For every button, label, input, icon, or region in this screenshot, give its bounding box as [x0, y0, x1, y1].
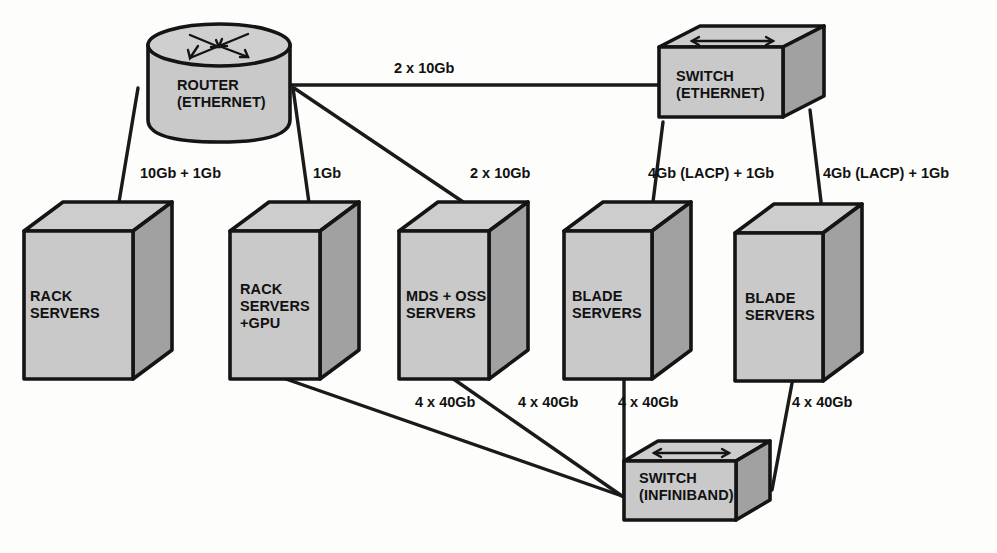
blade-2-side: [823, 204, 862, 381]
diagram-canvas: [0, 0, 997, 553]
link-router-to-mds-oss[interactable]: [294, 88, 478, 212]
link-router-to-rack-servers[interactable]: [118, 88, 138, 208]
link-switch-ethernet-to-blade-2[interactable]: [810, 110, 822, 210]
node-mds-oss-servers[interactable]: [399, 202, 528, 379]
switch-ethernet-front: [659, 47, 783, 117]
rack-servers-gpu-front: [230, 231, 320, 379]
link-switch-ethernet-to-blade-1[interactable]: [652, 122, 663, 210]
mds-oss-side: [489, 202, 528, 379]
mds-oss-front: [399, 231, 489, 379]
node-blade-servers-2[interactable]: [735, 204, 862, 381]
switch-infiniband-front: [624, 461, 736, 520]
rack-servers-gpu-side: [320, 202, 359, 379]
blade-1-front: [564, 231, 652, 379]
link-rack-gpu-to-infiniband[interactable]: [283, 378, 622, 496]
blade-2-front: [735, 233, 823, 381]
link-mds-oss-to-infiniband[interactable]: [452, 378, 622, 496]
node-rack-servers-gpu[interactable]: [230, 202, 359, 379]
link-router-to-rack-servers-gpu[interactable]: [293, 88, 310, 210]
network-topology-diagram: ROUTER(ETHERNET) SWITCH(ETHERNET) SWITCH…: [0, 0, 997, 553]
rack-servers-front: [24, 231, 133, 379]
node-switch-infiniband[interactable]: [624, 441, 770, 520]
rack-servers-side: [133, 202, 172, 379]
node-router-ethernet[interactable]: [148, 24, 290, 142]
node-rack-servers[interactable]: [24, 202, 172, 379]
blade-1-side: [652, 202, 691, 379]
node-blade-servers-1[interactable]: [564, 202, 691, 379]
node-switch-ethernet[interactable]: [659, 26, 824, 117]
